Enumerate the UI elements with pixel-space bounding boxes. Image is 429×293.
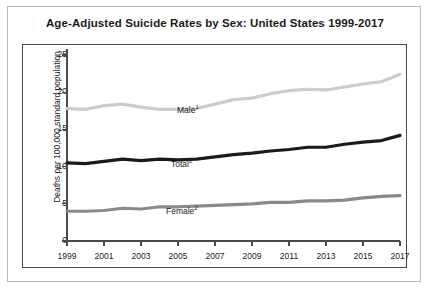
x-axis-tick-label: 2015 — [354, 251, 373, 261]
series-label-text: Male — [177, 105, 195, 115]
axes-group — [62, 49, 400, 246]
x-axis-tick-label: 2011 — [280, 251, 298, 261]
x-axis-tick-label: 2005 — [169, 251, 188, 261]
chart-title: Age-Adjusted Suicide Rates by Sex: Unite… — [8, 17, 422, 29]
series-label-footnote: 1 — [195, 104, 198, 110]
x-axis-tick-labels: 1999200120032005200720092011201320152017 — [23, 241, 408, 261]
series-label-text: Female — [166, 206, 194, 216]
series-line-male — [67, 74, 400, 109]
series-line-total — [67, 135, 400, 163]
series-line-female — [67, 196, 400, 212]
x-axis-tick-label: 2009 — [243, 251, 262, 261]
series-label-text: Total — [171, 159, 189, 169]
x-axis-tick-label: 2003 — [132, 251, 151, 261]
x-axis-tick-label: 1999 — [58, 251, 77, 261]
x-axis-tick-label: 2013 — [317, 251, 336, 261]
series-group — [67, 74, 400, 211]
series-label-footnote: 2 — [194, 205, 197, 211]
x-axis-tick-label: 2017 — [391, 251, 410, 261]
series-label-male: Male1 — [177, 104, 199, 115]
series-label-footnote: 2 — [189, 158, 192, 164]
chart-canvas — [23, 45, 408, 269]
series-label-total: Total2 — [171, 158, 192, 169]
x-axis-tick-label: 2001 — [95, 251, 114, 261]
figure-card: Age-Adjusted Suicide Rates by Sex: Unite… — [7, 6, 421, 282]
series-label-female: Female2 — [166, 205, 198, 216]
plot-area: Deaths per 100,000 standard population 0… — [22, 44, 407, 268]
x-axis-tick-label: 2007 — [206, 251, 225, 261]
